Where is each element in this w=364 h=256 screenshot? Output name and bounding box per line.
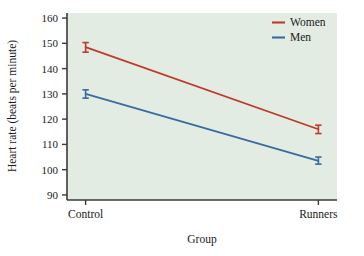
y-tick-label: 160 <box>42 12 59 24</box>
y-tick-label: 140 <box>42 63 59 75</box>
y-tick-label: 90 <box>47 189 59 201</box>
heart-rate-line-chart: 90100110120130140150160 ControlRunners W… <box>0 0 364 256</box>
x-tick-label: Runners <box>299 208 338 220</box>
x-tick-label: Control <box>68 208 103 220</box>
y-tick-label: 110 <box>42 138 59 150</box>
y-tick-label: 150 <box>42 37 59 49</box>
y-tick-label: 100 <box>42 164 59 176</box>
y-tick-label: 130 <box>42 88 59 100</box>
x-axis-title: Group <box>187 233 217 246</box>
legend-label: Women <box>290 16 326 28</box>
chart-figure: 90100110120130140150160 ControlRunners W… <box>0 0 364 256</box>
y-axis-title: Heart rate (beats per minute) <box>6 40 19 172</box>
y-tick-label: 120 <box>42 113 59 125</box>
legend-label: Men <box>290 31 311 43</box>
